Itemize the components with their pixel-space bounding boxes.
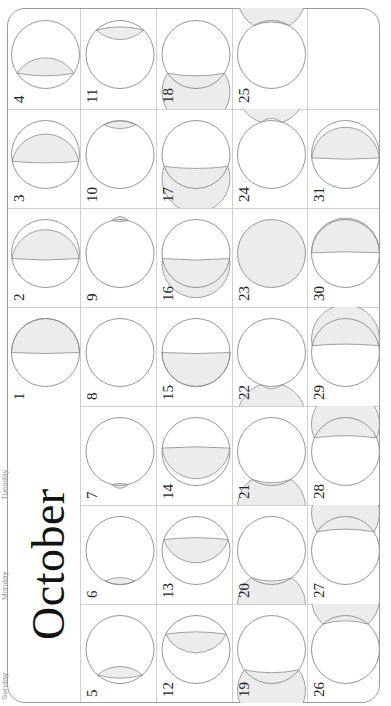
month-title: October <box>22 488 75 640</box>
day-cell[interactable]: 24 <box>232 109 307 208</box>
day-cell[interactable]: 27 <box>307 505 380 604</box>
day-cell[interactable]: 7 <box>80 406 156 505</box>
day-number: 19 <box>236 682 253 697</box>
day-number: 12 <box>160 682 177 697</box>
day-number: 27 <box>311 583 328 598</box>
day-number: 21 <box>236 484 253 499</box>
day-number: 6 <box>84 591 101 599</box>
day-cell[interactable]: 30 <box>307 208 380 307</box>
day-cell[interactable]: 5 <box>80 604 156 703</box>
moon-phase-icon <box>7 109 80 208</box>
day-number: 1 <box>11 393 28 401</box>
day-number: 3 <box>11 195 28 203</box>
moon-phase-icon <box>7 307 80 406</box>
day-cell[interactable]: 14 <box>156 406 232 505</box>
day-cell[interactable]: 19 <box>232 604 307 703</box>
day-number: 13 <box>160 583 177 598</box>
day-cell[interactable]: 1 <box>7 307 80 406</box>
day-number: 28 <box>311 484 328 499</box>
day-cell[interactable]: 29 <box>307 307 380 406</box>
day-cell[interactable]: 25 <box>232 8 307 109</box>
day-cell[interactable]: 22 <box>232 307 307 406</box>
weekday-label-tuesday: Tuesday <box>0 470 9 500</box>
day-cell[interactable]: 6 <box>80 505 156 604</box>
day-cell[interactable]: 28 <box>307 406 380 505</box>
day-number: 20 <box>236 583 253 598</box>
day-cell[interactable]: 4 <box>7 8 80 109</box>
day-cell[interactable]: 18 <box>156 8 232 109</box>
day-number: 14 <box>160 484 177 499</box>
day-number: 2 <box>11 294 28 302</box>
day-number: 10 <box>84 187 101 202</box>
day-number: 30 <box>311 286 328 301</box>
day-number: 15 <box>160 385 177 400</box>
day-cell[interactable]: 11 <box>80 8 156 109</box>
day-number: 23 <box>236 286 253 301</box>
day-number: 8 <box>84 393 101 401</box>
moon-phase-icon <box>80 307 156 406</box>
day-cell[interactable]: 21 <box>232 406 307 505</box>
day-cell[interactable]: 20 <box>232 505 307 604</box>
day-number: 22 <box>236 385 253 400</box>
day-cell[interactable]: 31 <box>307 109 380 208</box>
day-number: 26 <box>311 682 328 697</box>
day-cell[interactable]: 8 <box>80 307 156 406</box>
day-cell[interactable]: 17 <box>156 109 232 208</box>
day-number: 29 <box>311 385 328 400</box>
moon-phase-icon <box>7 208 80 307</box>
day-cell[interactable]: 10 <box>80 109 156 208</box>
day-number: 18 <box>160 88 177 103</box>
day-cell[interactable]: 15 <box>156 307 232 406</box>
day-number: 5 <box>84 690 101 698</box>
day-number: 9 <box>84 294 101 302</box>
day-number: 7 <box>84 492 101 500</box>
moon-phase-icon <box>80 208 156 307</box>
day-number: 4 <box>11 96 28 104</box>
weekday-label-monday: Monday <box>0 572 9 600</box>
weekday-label-sunday: Sunday <box>0 673 9 700</box>
day-cell[interactable]: 3 <box>7 109 80 208</box>
day-number: 24 <box>236 187 253 202</box>
day-cell[interactable]: 13 <box>156 505 232 604</box>
day-number: 31 <box>311 187 328 202</box>
day-number: 11 <box>84 89 101 103</box>
day-number: 17 <box>160 187 177 202</box>
day-cell[interactable]: 26 <box>307 604 380 703</box>
day-number: 25 <box>236 88 253 103</box>
moon-phase-icon <box>7 8 80 109</box>
moon-phase-icon <box>80 604 156 703</box>
day-number: 16 <box>160 286 177 301</box>
day-cell[interactable]: 12 <box>156 604 232 703</box>
day-cell[interactable]: 16 <box>156 208 232 307</box>
day-cell[interactable]: 23 <box>232 208 307 307</box>
day-cell[interactable]: 9 <box>80 208 156 307</box>
day-cell[interactable]: 2 <box>7 208 80 307</box>
